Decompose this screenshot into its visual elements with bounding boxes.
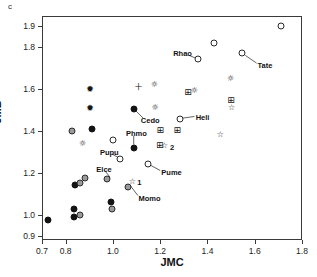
data-point bbox=[68, 128, 75, 135]
data-point: ✹ bbox=[86, 103, 94, 112]
data-point-cedo bbox=[131, 106, 138, 113]
point-annotation-heli: Heli bbox=[196, 113, 210, 122]
panel-label: c bbox=[8, 2, 12, 11]
data-point-phmo bbox=[130, 144, 137, 151]
data-point-1: ☆ bbox=[129, 178, 136, 186]
point-annotation-1: 1 bbox=[137, 178, 141, 187]
y-tick-label: 0.9 bbox=[23, 231, 35, 241]
x-tick-label: 0.7 bbox=[36, 246, 48, 256]
x-tick bbox=[66, 240, 67, 244]
data-point: ⊞ bbox=[173, 126, 181, 135]
x-tick-label: 1.2 bbox=[154, 246, 166, 256]
point-annotation-pupu: Pupu bbox=[100, 148, 119, 157]
y-tick-label: 1.8 bbox=[23, 42, 35, 52]
data-point bbox=[278, 23, 285, 30]
data-point: ☆ bbox=[217, 131, 224, 139]
point-annotation-rhao: Rhao bbox=[173, 49, 192, 58]
data-point-2: ☆ bbox=[161, 142, 168, 150]
x-tick bbox=[255, 240, 256, 244]
data-point-rhao bbox=[195, 55, 202, 62]
y-tick-label: 1.0 bbox=[23, 210, 35, 220]
x-tick bbox=[160, 240, 161, 244]
point-annotation-phmo: Phmo bbox=[126, 129, 147, 138]
data-point-tate bbox=[239, 50, 246, 57]
data-point: ☼ bbox=[227, 75, 234, 83]
point-annotation-elce: Elce bbox=[96, 165, 111, 174]
data-point: ☼ bbox=[191, 87, 198, 95]
x-tick bbox=[42, 240, 43, 244]
data-point: ☼ bbox=[151, 104, 158, 112]
x-tick-label: 0.8 bbox=[60, 246, 72, 256]
data-point bbox=[109, 205, 116, 212]
data-point: ⊞ bbox=[156, 126, 164, 135]
data-point bbox=[77, 212, 84, 219]
scatter-plot-figure: c 1.91.81.61.41.21.00.9 0.70.81.01.21.41… bbox=[0, 0, 317, 277]
x-tick-label: 1.6 bbox=[249, 246, 261, 256]
data-point bbox=[104, 176, 111, 183]
point-annotation-tate: Tate bbox=[258, 61, 273, 70]
data-point-pume bbox=[144, 161, 151, 168]
data-point-heli bbox=[176, 115, 183, 122]
data-point bbox=[77, 180, 84, 187]
data-point bbox=[70, 205, 77, 212]
x-tick bbox=[113, 240, 114, 244]
x-tick-label: 1.0 bbox=[107, 246, 119, 256]
data-point bbox=[81, 174, 88, 181]
y-tick-label: 1.4 bbox=[23, 126, 35, 136]
y-tick-label: 1.9 bbox=[23, 21, 35, 31]
point-annotation-cedo: Cedo bbox=[141, 116, 160, 125]
x-tick-label: 1.8 bbox=[296, 246, 308, 256]
plot-data-area: ☼✹✹☆＋☼☼⊞⊞☆⊞⊞☼☆☼⊞☆ bbox=[42, 16, 302, 240]
data-point bbox=[107, 198, 114, 205]
point-annotation-momo: Momo bbox=[138, 194, 160, 203]
y-tick-label: 1.6 bbox=[23, 84, 35, 94]
data-point: ☆ bbox=[228, 104, 235, 112]
data-point: ＋ bbox=[134, 82, 143, 91]
y-tick-label: 1.2 bbox=[23, 168, 35, 178]
data-point bbox=[89, 126, 96, 133]
data-point bbox=[211, 39, 218, 46]
x-tick-label: 1.4 bbox=[202, 246, 214, 256]
x-axis-label: JMC bbox=[42, 256, 302, 268]
y-axis-label: JMB bbox=[0, 100, 3, 123]
data-point: ✹ bbox=[86, 85, 94, 94]
data-point: ☼ bbox=[151, 81, 158, 89]
data-point bbox=[44, 217, 51, 224]
x-tick bbox=[302, 240, 303, 244]
y-axis: 1.91.81.61.41.21.00.9 bbox=[0, 16, 42, 240]
data-point bbox=[109, 136, 116, 143]
x-tick bbox=[207, 240, 208, 244]
point-annotation-2: 2 bbox=[170, 143, 174, 152]
point-annotation-pume: Pume bbox=[161, 168, 181, 177]
data-point: ☼ bbox=[79, 140, 86, 148]
